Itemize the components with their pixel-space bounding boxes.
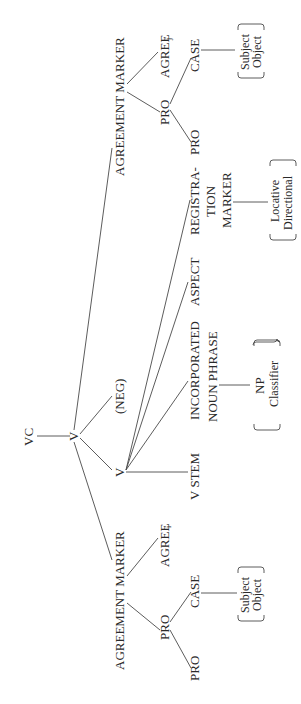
edge-v-vinner — [80, 438, 112, 470]
node-case-top: CASE — [187, 39, 202, 72]
node-locative-option: Locative — [268, 180, 282, 222]
edge-v-agr-top — [74, 148, 112, 430]
node-v-inner: V — [112, 467, 127, 477]
edge-agrtop-agree — [127, 52, 158, 84]
node-incorporated-line1: INCORPORATED — [187, 321, 202, 420]
brace-np-bottom — [254, 424, 280, 430]
node-registration-line2: TION — [203, 185, 218, 217]
brace-case-top-bottom — [238, 72, 264, 78]
node-neg: (NEG) — [112, 379, 127, 414]
tree-edges — [37, 50, 268, 668]
edge-agrtop-pro — [127, 92, 160, 112]
edge-vinner-reg — [126, 200, 190, 470]
node-object-top: Object — [250, 35, 264, 68]
edge-agrbot-agree — [127, 538, 158, 576]
node-aspect: ASPECT — [187, 258, 202, 306]
tree-svg: VC V (NEG) V V STEM INCORPORATED NOUN PH… — [0, 0, 301, 704]
node-pro-top-child: PRO — [187, 130, 202, 155]
node-vc: VC — [21, 428, 36, 446]
node-case-bottom: CASE — [187, 575, 202, 608]
node-v-stem: V STEM — [187, 452, 202, 500]
node-agree-bottom: AGREE — [157, 524, 172, 567]
node-pro-top-parent: PRO — [157, 100, 172, 125]
brace-case-top-top — [238, 24, 264, 30]
tree-diagram: VC V (NEG) V V STEM INCORPORATED NOUN PH… — [0, 0, 301, 704]
brace-case-bottom-bottom — [238, 615, 264, 621]
edge-vinner-aspect — [126, 282, 188, 470]
brace-case-bottom-top — [238, 567, 264, 573]
node-agreement-marker-top: AGREEMENT MARKER — [112, 37, 127, 176]
tree-labels: VC V (NEG) V V STEM INCORPORATED NOUN PH… — [21, 24, 296, 681]
node-pro-bottom-child: PRO — [187, 656, 202, 681]
node-agreement-marker-bottom: AGREEMENT MARKER — [112, 531, 127, 670]
node-classifier-option: Classifier — [267, 361, 281, 407]
node-agree-top-subscript: j — [164, 38, 173, 41]
brace-reg-top — [270, 160, 296, 166]
node-v-top: V — [66, 431, 81, 441]
edge-v-neg — [80, 396, 112, 434]
node-pro-bottom-parent: PRO — [157, 615, 172, 640]
node-directional-option: Directional — [281, 175, 295, 230]
node-registration-line3: MARKER — [219, 172, 234, 228]
node-np-option: NP — [252, 377, 267, 394]
node-agree-top: AGREE — [157, 35, 172, 78]
node-registration-line1: REGISTRA- — [187, 167, 202, 235]
node-object-bottom: Object — [250, 578, 264, 611]
node-incorporated-line2: NOUN PHRASE — [205, 331, 220, 422]
brace-reg-bottom — [270, 234, 296, 240]
edge-v-agr-bottom — [74, 442, 112, 560]
edge-vinner-incnp — [126, 381, 188, 470]
edge-agrbot-pro — [127, 603, 160, 630]
